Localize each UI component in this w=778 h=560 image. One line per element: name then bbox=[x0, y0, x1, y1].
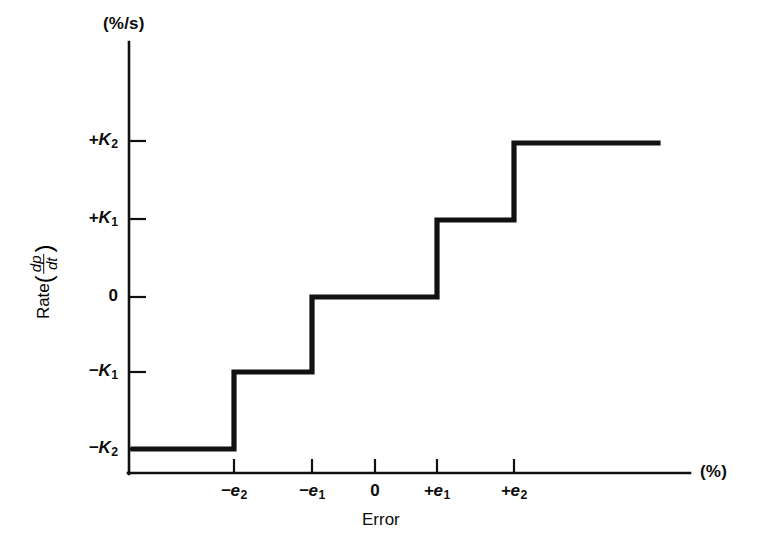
x-axis-title: Error bbox=[362, 510, 400, 530]
x-axis-unit-label: (%) bbox=[700, 462, 727, 482]
step-function-curve bbox=[133, 143, 658, 449]
y-tick-symbol-k1-neg: K bbox=[98, 361, 110, 380]
x-tick-label-e2-pos: +e2 bbox=[474, 481, 554, 502]
x-tick-marks bbox=[234, 459, 514, 473]
y-axis-title-fraction-denominator: dt bbox=[44, 254, 60, 275]
y-axis-title: Rate(dpdt) bbox=[29, 202, 61, 362]
x-tick-subscript-e1-neg: 1 bbox=[319, 488, 326, 502]
y-axis-title-fraction: dpdt bbox=[28, 254, 60, 275]
y-tick-subscript-k2-pos: 2 bbox=[111, 137, 118, 151]
x-tick-symbol-e2-pos: e bbox=[511, 481, 520, 500]
y-tick-subscript-k1-neg: 1 bbox=[111, 368, 118, 382]
x-tick-symbol-e1-pos: e bbox=[434, 481, 443, 500]
y-axis-title-container: Rate(dpdt) bbox=[10, 200, 80, 360]
x-tick-label-e2-neg: −e2 bbox=[194, 481, 274, 502]
x-tick-sign-e2-neg: − bbox=[221, 481, 231, 500]
x-tick-symbol-e2-neg: e bbox=[231, 481, 240, 500]
y-axis-title-open-paren: ( bbox=[30, 275, 57, 283]
x-tick-subscript-e2-neg: 2 bbox=[241, 488, 248, 502]
x-tick-symbol-zero: 0 bbox=[370, 481, 379, 500]
y-tick-sign-k2-neg: − bbox=[88, 438, 98, 457]
y-tick-symbol-k1-pos: K bbox=[98, 208, 110, 227]
x-tick-sign-e1-pos: + bbox=[424, 481, 434, 500]
y-axis-title-text: Rate bbox=[34, 283, 53, 319]
y-tick-symbol-k2-pos: K bbox=[98, 130, 110, 149]
y-axis-title-fraction-numerator: dp bbox=[28, 254, 43, 275]
y-tick-symbol-k2-neg: K bbox=[98, 438, 110, 457]
y-tick-label-k2-pos: +K2 bbox=[48, 130, 118, 151]
y-tick-label-k2-neg: −K2 bbox=[48, 438, 118, 459]
chart-figure: (%/s) (%) +K2 +K1 0 −K1 −K2 −e2 −e1 0 +e… bbox=[0, 0, 778, 560]
x-tick-sign-e1-neg: − bbox=[299, 481, 309, 500]
y-tick-sign-k1-neg: − bbox=[88, 361, 98, 380]
y-tick-marks bbox=[129, 141, 146, 449]
y-axis-unit-label: (%/s) bbox=[103, 14, 145, 34]
y-tick-subscript-k1-pos: 1 bbox=[111, 215, 118, 229]
y-tick-sign-k1-pos: + bbox=[88, 208, 98, 227]
x-tick-symbol-e1-neg: e bbox=[309, 481, 318, 500]
y-tick-label-k1-neg: −K1 bbox=[48, 361, 118, 382]
chart-canvas bbox=[0, 0, 778, 560]
y-tick-subscript-k2-neg: 2 bbox=[111, 445, 118, 459]
x-tick-sign-e2-pos: + bbox=[501, 481, 511, 500]
y-tick-symbol-zero: 0 bbox=[109, 286, 118, 305]
y-tick-sign-k2-pos: + bbox=[88, 130, 98, 149]
y-axis-title-close-paren: ) bbox=[30, 245, 57, 253]
x-tick-subscript-e2-pos: 2 bbox=[521, 488, 528, 502]
x-tick-subscript-e1-pos: 1 bbox=[444, 488, 451, 502]
x-tick-label-e1-pos: +e1 bbox=[397, 481, 477, 502]
